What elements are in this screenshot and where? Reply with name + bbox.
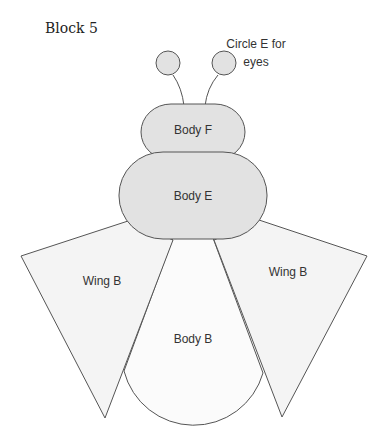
body-f-label: Body F bbox=[174, 123, 212, 137]
eye-left bbox=[156, 51, 180, 75]
eye-right bbox=[212, 51, 236, 75]
wing-left-label: Wing B bbox=[83, 274, 122, 288]
antenna-left bbox=[173, 75, 184, 106]
wing-right-label: Wing B bbox=[269, 265, 308, 279]
antenna-right bbox=[205, 75, 218, 106]
body-e-label: Body E bbox=[174, 189, 213, 203]
eyes-label-line2: eyes bbox=[243, 55, 268, 69]
body-e: Body E bbox=[119, 152, 267, 239]
bee-pattern-diagram: Body B Wing B Wing B Circle E for eyes B… bbox=[0, 0, 390, 444]
body-b-label: Body B bbox=[174, 332, 213, 346]
eyes-label-line1: Circle E for bbox=[226, 37, 285, 51]
